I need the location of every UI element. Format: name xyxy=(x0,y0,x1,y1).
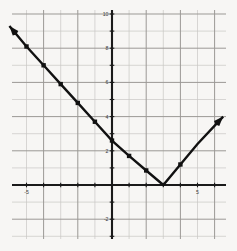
y-tick-label: 10 xyxy=(103,11,109,17)
y-tick-label: 6 xyxy=(106,79,109,85)
x-tick-label: -5 xyxy=(24,189,29,195)
data-point-marker xyxy=(144,168,148,172)
graph-canvas: 108642-2-55 xyxy=(0,0,237,251)
data-point-marker xyxy=(24,44,28,48)
data-point-marker xyxy=(127,154,131,158)
coordinate-graph: 108642-2-55 xyxy=(0,0,237,251)
data-point-marker xyxy=(178,162,182,166)
y-tick-label: 8 xyxy=(106,45,109,51)
data-point-marker xyxy=(93,120,97,124)
data-point-marker xyxy=(110,138,114,142)
y-tick-label: 4 xyxy=(106,114,109,120)
graph-background xyxy=(0,0,237,251)
data-point-marker xyxy=(41,63,45,67)
y-tick-label: 2 xyxy=(106,148,109,154)
x-tick-label: 5 xyxy=(196,189,199,195)
data-point-marker xyxy=(59,82,63,86)
data-point-marker xyxy=(76,101,80,105)
y-tick-label: -2 xyxy=(104,216,109,222)
